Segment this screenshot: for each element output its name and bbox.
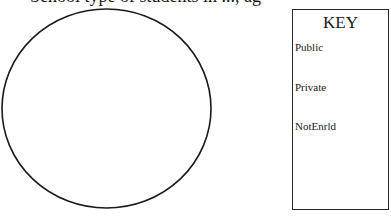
legend-item-private: Private (295, 81, 326, 94)
pie-chart (0, 0, 230, 219)
legend-title: KEY (293, 13, 388, 33)
legend-item-public: Public (295, 41, 323, 54)
legend-item-notenrld: NotEnrld (295, 120, 336, 133)
legend-key: KEY Public Private NotEnrld (292, 9, 389, 210)
pie-outline (2, 9, 211, 208)
